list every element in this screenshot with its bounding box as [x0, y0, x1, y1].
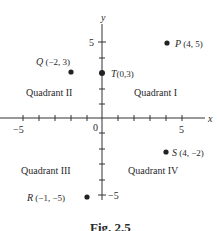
point-R: R (−1, −5)	[26, 192, 90, 203]
svg-text:P (4, 5): P (4, 5)	[174, 38, 203, 49]
point-P: P (4, 5)	[164, 38, 202, 49]
point-T: T(0,3)	[99, 68, 134, 79]
point-S: S (4, −2)	[163, 147, 203, 158]
point-Q: Q (−2, 3)	[36, 56, 74, 75]
x-tick-label-neg5: −5	[13, 124, 24, 135]
svg-text:S (4, −2): S (4, −2)	[172, 147, 204, 158]
y-axis-label: y	[100, 12, 106, 23]
svg-text:Q (−2, 3): Q (−2, 3)	[36, 56, 70, 67]
quadrant-4-label: Quadrant IV	[128, 165, 179, 176]
y-tick-label-neg5: −5	[108, 190, 119, 201]
quadrant-1-label: Quadrant I	[134, 87, 177, 98]
x-axis-label: x	[207, 113, 213, 124]
x-tick-label-5: 5	[179, 124, 184, 135]
quadrant-3-label: Quadrant III	[21, 165, 71, 176]
svg-text:R (−1, −5): R (−1, −5)	[26, 192, 65, 203]
quadrant-2-label: Quadrant II	[26, 87, 72, 98]
coordinate-plane-diagram: y x 0 −5 5 5 −5 Quadrant I Quadrant II Q…	[0, 0, 217, 231]
y-tick-label-5: 5	[89, 37, 94, 48]
svg-text:T(0,3): T(0,3)	[111, 68, 134, 79]
origin-label: 0	[93, 122, 98, 133]
figure-caption: Fig. 2.5	[90, 220, 131, 231]
